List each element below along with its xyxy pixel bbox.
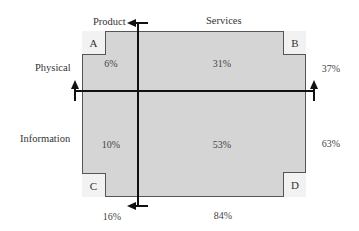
column-total-product: 16% (103, 212, 121, 222)
column-total-services: 84% (214, 211, 232, 221)
column-header-product: Product (93, 17, 126, 28)
row-header-physical: Physical (35, 63, 71, 74)
arrow-bottom-left-icon (127, 202, 148, 210)
arrows-layer (0, 0, 359, 231)
row-total-physical: 37% (322, 64, 340, 74)
value-physical-product: 6% (104, 59, 117, 69)
product-services-matrix-diagram: A B C D Product Services Physical Inform… (0, 0, 359, 231)
row-header-information: Information (20, 134, 70, 145)
column-header-services: Services (206, 16, 242, 27)
value-information-services: 53% (213, 140, 231, 150)
arrow-top-left-icon (127, 19, 148, 27)
value-physical-services: 31% (213, 59, 231, 69)
arrow-right-up-icon (310, 80, 318, 101)
row-total-information: 63% (322, 139, 340, 149)
value-information-product: 10% (102, 140, 120, 150)
arrow-left-up-icon (71, 80, 79, 101)
